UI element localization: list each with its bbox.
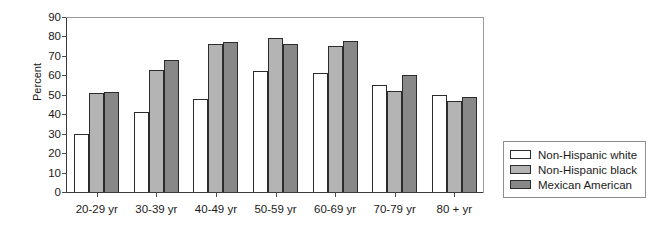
legend-label: Mexican American (538, 179, 632, 191)
legend-label: Non-Hispanic black (538, 164, 637, 176)
x-axis-tick-mark (335, 192, 336, 197)
x-axis-tick-label: 30-39 yr (135, 203, 177, 215)
bar (74, 134, 89, 192)
bar-group: 70-79 yr (365, 17, 425, 192)
legend-item: Mexican American (510, 177, 637, 192)
bar (432, 95, 447, 192)
bar (134, 112, 149, 192)
bar (447, 101, 462, 192)
y-axis-title: Percent (31, 47, 43, 117)
x-axis-tick-mark (216, 192, 217, 197)
y-axis-tick-label: 80 (48, 30, 61, 42)
bar (104, 92, 119, 192)
x-axis-tick-mark (454, 192, 455, 197)
x-axis-tick-label: 20-29 yr (76, 203, 118, 215)
y-axis-tick-label: 10 (48, 167, 61, 179)
x-axis-tick-label: 80 + yr (437, 203, 472, 215)
bar (343, 41, 358, 192)
bar-group: 80 + yr (424, 17, 484, 192)
x-axis-tick-mark (97, 192, 98, 197)
y-axis-tick-label: 50 (48, 89, 61, 101)
x-axis-tick-mark (156, 192, 157, 197)
bar (402, 75, 417, 192)
x-axis-tick-mark (395, 192, 396, 197)
bar (328, 46, 343, 192)
legend: Non-Hispanic whiteNon-Hispanic blackMexi… (503, 141, 646, 198)
bar (193, 99, 208, 192)
bar (253, 71, 268, 192)
y-axis-tick-label: 20 (48, 147, 61, 159)
y-axis-tick-label: 70 (48, 50, 61, 62)
bar (149, 70, 164, 193)
y-axis-tick-mark (62, 192, 67, 193)
legend-swatch (510, 180, 531, 189)
legend-item: Non-Hispanic white (510, 147, 637, 162)
legend-swatch (510, 165, 531, 174)
x-axis-tick-label: 70-79 yr (374, 203, 416, 215)
bar (164, 60, 179, 192)
bar (208, 44, 223, 192)
plot-area: 0102030405060708090 20-29 yr30-39 yr40-4… (66, 17, 484, 193)
x-axis-tick-label: 60-69 yr (314, 203, 356, 215)
bar (223, 42, 238, 192)
bar (372, 85, 387, 192)
bar-group: 30-39 yr (127, 17, 187, 192)
y-axis-tick-label: 90 (48, 11, 61, 23)
y-axis-tick-label: 0 (55, 186, 61, 198)
bar (268, 38, 283, 192)
bar (462, 97, 477, 192)
bar-group: 40-49 yr (186, 17, 246, 192)
legend-item: Non-Hispanic black (510, 162, 637, 177)
bar-group: 60-69 yr (305, 17, 365, 192)
legend-swatch (510, 150, 531, 159)
y-axis-tick-label: 60 (48, 69, 61, 81)
bar-group: 50-59 yr (246, 17, 306, 192)
bar-group: 20-29 yr (67, 17, 127, 192)
legend-label: Non-Hispanic white (538, 149, 637, 161)
bar (283, 44, 298, 192)
bar-chart-figure: Percent 0102030405060708090 20-29 yr30-3… (0, 0, 649, 226)
x-axis-tick-label: 50-59 yr (254, 203, 296, 215)
bar (387, 91, 402, 192)
y-axis-tick-label: 30 (48, 128, 61, 140)
x-axis-tick-mark (276, 192, 277, 197)
y-axis-tick-label: 40 (48, 108, 61, 120)
bar (89, 93, 104, 192)
bar-groups: 20-29 yr30-39 yr40-49 yr50-59 yr60-69 yr… (67, 17, 484, 192)
x-axis-tick-label: 40-49 yr (195, 203, 237, 215)
bar (313, 73, 328, 192)
